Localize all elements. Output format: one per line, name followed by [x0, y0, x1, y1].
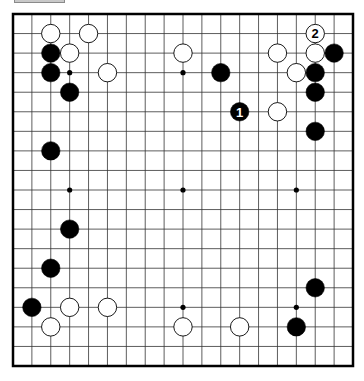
stone-disc [212, 63, 230, 81]
stone-disc [79, 24, 97, 42]
black-stone[interactable] [60, 220, 78, 238]
stone-disc [268, 103, 286, 121]
white-stone[interactable] [42, 318, 60, 336]
black-stone[interactable]: 1 [230, 103, 248, 121]
star-point [294, 305, 299, 310]
stone-disc [174, 318, 192, 336]
stone-disc [42, 318, 60, 336]
stone-disc [42, 63, 60, 81]
stone-disc [42, 24, 60, 42]
black-stone[interactable] [42, 142, 60, 160]
black-stone[interactable] [42, 63, 60, 81]
star-point [180, 70, 185, 75]
black-stone[interactable] [42, 259, 60, 277]
stone-disc [287, 63, 305, 81]
black-stone[interactable] [306, 83, 324, 101]
stone-disc [306, 63, 324, 81]
black-stone[interactable] [306, 122, 324, 140]
stone-disc [306, 279, 324, 297]
stone-disc [325, 44, 343, 62]
stone-disc [98, 298, 116, 316]
star-point [67, 70, 72, 75]
star-point [180, 305, 185, 310]
white-stone[interactable] [79, 24, 97, 42]
white-stone[interactable] [98, 298, 116, 316]
stone-disc [60, 298, 78, 316]
white-stone[interactable] [230, 318, 248, 336]
white-stone[interactable] [174, 318, 192, 336]
white-stone[interactable] [174, 44, 192, 62]
white-stone[interactable] [287, 63, 305, 81]
white-stone[interactable] [98, 63, 116, 81]
stone-disc [98, 63, 116, 81]
black-stone[interactable] [306, 63, 324, 81]
go-board[interactable]: 12 [0, 0, 364, 381]
stone-disc [42, 259, 60, 277]
stone-disc [268, 44, 286, 62]
stone-disc [60, 44, 78, 62]
stone-disc [174, 44, 192, 62]
move-number-label: 1 [236, 105, 243, 120]
white-stone[interactable] [268, 103, 286, 121]
stone-disc [60, 220, 78, 238]
stone-disc [60, 83, 78, 101]
black-stone[interactable] [23, 298, 41, 316]
move-number-label: 2 [312, 26, 319, 41]
stone-disc [306, 83, 324, 101]
black-stone[interactable] [212, 63, 230, 81]
white-stone[interactable]: 2 [306, 24, 324, 42]
stone-disc [42, 142, 60, 160]
black-stone[interactable] [287, 318, 305, 336]
stone-disc [306, 122, 324, 140]
stone-disc [23, 298, 41, 316]
star-point [294, 187, 299, 192]
black-stone[interactable] [306, 279, 324, 297]
star-point [180, 187, 185, 192]
white-stone[interactable] [60, 44, 78, 62]
stone-disc [230, 318, 248, 336]
black-stone[interactable] [42, 44, 60, 62]
stone-disc [287, 318, 305, 336]
black-stone[interactable] [60, 83, 78, 101]
white-stone[interactable] [60, 298, 78, 316]
white-stone[interactable] [306, 44, 324, 62]
stone-disc [42, 44, 60, 62]
black-stone[interactable] [325, 44, 343, 62]
star-point [67, 187, 72, 192]
stone-disc [306, 44, 324, 62]
white-stone[interactable] [42, 24, 60, 42]
white-stone[interactable] [268, 44, 286, 62]
